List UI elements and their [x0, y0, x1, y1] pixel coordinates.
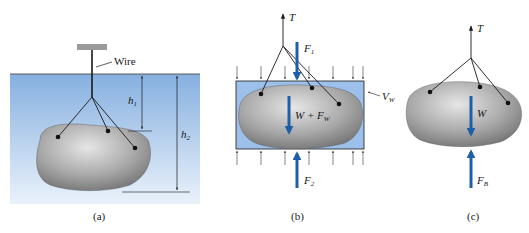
attachment-point [106, 129, 111, 134]
caption-a: (a) [93, 210, 106, 223]
attachment-point [56, 135, 61, 140]
tension-label: T [289, 11, 296, 23]
wire-label: Wire [114, 55, 136, 67]
caption-c: (c) [467, 210, 480, 223]
ceiling-support [77, 44, 107, 50]
volume-pointer [368, 92, 380, 96]
f2-label: F2 [303, 174, 315, 188]
rock [406, 82, 521, 147]
pressure-arrows-bottom [237, 151, 363, 165]
wire-pointer [96, 62, 112, 67]
caption-b: (b) [291, 210, 304, 223]
attachment-point [506, 101, 511, 106]
buoyant-force-label: FB [476, 174, 489, 188]
rock [37, 124, 151, 191]
attachment-point [428, 90, 433, 95]
attachment-point [133, 146, 138, 151]
volume-label: VW [382, 90, 396, 104]
attachment-point [337, 102, 342, 107]
buoyancy-diagram: Wire h1 h2 (a) [0, 0, 529, 233]
tension-label: T [477, 22, 484, 34]
attachment-point [259, 92, 264, 97]
weight-label: W [477, 107, 487, 119]
panel-a: Wire h1 h2 (a) [10, 44, 200, 223]
f1-label: F1 [303, 42, 314, 56]
panel-b: T F1 W + FW F2 VW (b) [236, 11, 396, 223]
panel-c: T W FB (c) [406, 22, 521, 223]
attachment-point [310, 86, 315, 91]
attachment-point [478, 85, 483, 90]
pressure-arrows-top [237, 66, 363, 79]
